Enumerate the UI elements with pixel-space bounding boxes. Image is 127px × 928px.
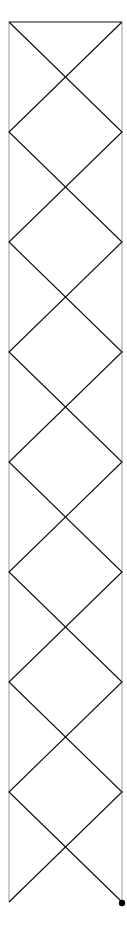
end-marker-dot <box>119 900 125 906</box>
zigzag-diagram <box>0 0 127 928</box>
background <box>0 0 127 928</box>
